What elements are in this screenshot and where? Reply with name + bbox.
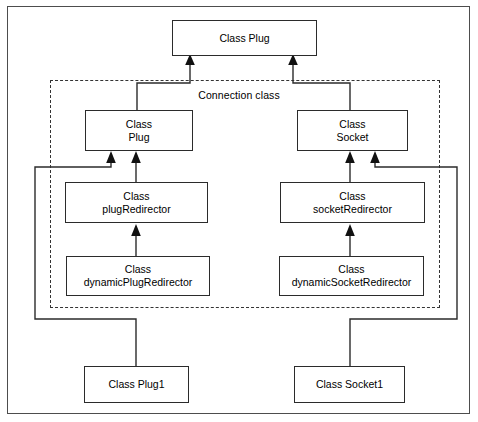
diagram-canvas: Connection class Class Plug (top) --> Cl…: [0, 0, 478, 422]
class-node-socket-connection-line-1: Class: [339, 118, 365, 131]
class-node-socket-connection-line-2: Socket: [336, 131, 368, 144]
connection-class-group-label: Connection class: [0, 89, 478, 101]
class-node-plug-connection-line-2: Plug: [128, 131, 149, 144]
class-node-dynamic-plug-redirector-line-2: dynamicPlugRedirector: [84, 276, 193, 289]
class-node-plug1-line-1: Class Plug1: [108, 378, 164, 391]
class-node-socket1[interactable]: Class Socket1: [294, 366, 405, 403]
class-node-dynamic-socket-redirector-line-2: dynamicSocketRedirector: [292, 276, 412, 289]
class-node-dynamic-socket-redirector[interactable]: Class dynamicSocketRedirector: [279, 256, 424, 296]
class-node-plug-redirector-line-1: Class: [123, 190, 149, 203]
class-node-socket1-line-1: Class Socket1: [316, 378, 383, 391]
class-node-plug-redirector[interactable]: Class plugRedirector: [65, 182, 208, 223]
class-node-plug-top[interactable]: Class Plug: [172, 20, 317, 56]
class-node-plug-top-line-1: Class Plug: [219, 32, 269, 45]
class-node-dynamic-plug-redirector-line-1: Class: [125, 263, 151, 276]
class-node-socket-redirector-line-1: Class: [339, 190, 365, 203]
class-node-plug-connection-line-1: Class: [126, 118, 152, 131]
class-node-plug-redirector-line-2: plugRedirector: [102, 203, 170, 216]
class-node-socket-connection[interactable]: Class Socket: [297, 110, 408, 151]
class-node-socket-redirector-line-2: socketRedirector: [313, 203, 392, 216]
class-node-socket-redirector[interactable]: Class socketRedirector: [280, 182, 425, 223]
class-node-plug1[interactable]: Class Plug1: [84, 366, 189, 403]
class-node-plug-connection[interactable]: Class Plug: [85, 110, 193, 151]
class-node-dynamic-plug-redirector[interactable]: Class dynamicPlugRedirector: [66, 256, 210, 296]
class-node-dynamic-socket-redirector-line-1: Class: [338, 263, 364, 276]
